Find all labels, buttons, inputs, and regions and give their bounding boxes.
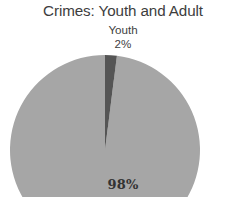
adult-slice-value-label: 98% xyxy=(0,177,246,192)
pie-chart-graphic xyxy=(0,0,246,197)
pie-slice-adult[interactable] xyxy=(10,55,200,197)
pie-chart-figure: Crimes: Youth and Adult Youth 2% 98% xyxy=(0,0,246,197)
